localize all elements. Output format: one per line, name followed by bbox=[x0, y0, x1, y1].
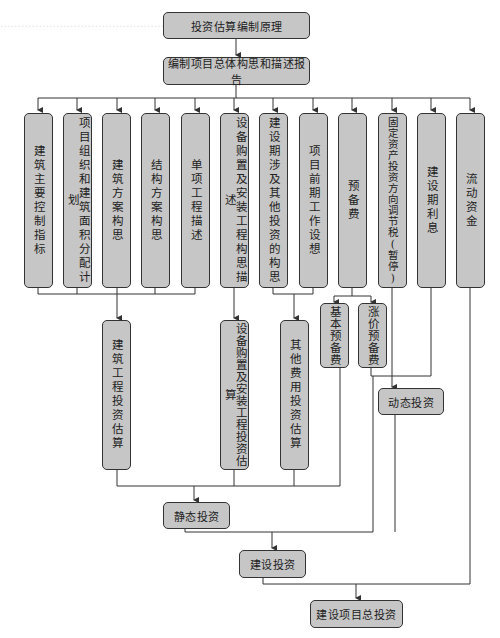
node-c8: 项目前期工作设想 bbox=[299, 113, 328, 288]
node-construction: 建设投资 bbox=[239, 550, 306, 578]
node-report: 编制项目总体构思和描述报告 bbox=[163, 57, 310, 85]
node-c12: 流动资金 bbox=[456, 113, 485, 288]
node-c5-label: 单项工程描述 bbox=[190, 159, 202, 243]
node-basic-reserve-label: 基本预备费 bbox=[329, 306, 341, 366]
node-c5: 单项工程描述 bbox=[181, 113, 210, 288]
node-root: 投资估算编制原理 bbox=[163, 12, 310, 39]
node-building-est: 建筑工程投资估算 bbox=[102, 320, 131, 470]
node-price-reserve-label: 涨价预备费 bbox=[367, 306, 379, 366]
node-basic-reserve: 基本预备费 bbox=[320, 303, 349, 368]
node-c10: 固定资产投资方向调节税(暂停) bbox=[378, 113, 407, 288]
node-c11: 建设期利息 bbox=[417, 113, 446, 288]
node-c4: 结构方案构思 bbox=[141, 113, 170, 288]
node-c6: 设备购置及安装工程构思描述 bbox=[220, 113, 249, 288]
node-equip-est: 设备购置及安装工程投资估算 bbox=[220, 320, 249, 470]
connector-lines bbox=[0, 0, 500, 638]
node-static-label: 静态投资 bbox=[174, 508, 220, 524]
node-c2-label: 项目组织和建筑面积分配计划 bbox=[66, 114, 89, 287]
node-c8-label: 项目前期工作设想 bbox=[308, 145, 320, 257]
node-c9: 预备费 bbox=[338, 113, 367, 288]
node-equip-est-label: 设备购置及安装工程投资估算 bbox=[223, 321, 246, 469]
node-c2: 项目组织和建筑面积分配计划 bbox=[63, 113, 92, 288]
node-c11-label: 建设期利息 bbox=[426, 166, 438, 236]
node-c1: 建筑主要控制指标 bbox=[24, 113, 53, 288]
node-c1-label: 建筑主要控制指标 bbox=[33, 145, 45, 257]
node-other-est: 其他费用投资估算 bbox=[280, 320, 309, 470]
node-total-label: 建设项目总投资 bbox=[316, 606, 397, 622]
node-c7: 建设期涉及其他投资的构思 bbox=[259, 113, 288, 288]
node-building-est-label: 建筑工程投资估算 bbox=[111, 339, 123, 451]
node-dynamic: 动态投资 bbox=[378, 388, 444, 415]
node-price-reserve: 涨价预备费 bbox=[358, 303, 387, 368]
node-c9-label: 预备费 bbox=[347, 180, 359, 222]
node-other-est-label: 其他费用投资估算 bbox=[289, 339, 301, 451]
node-c3: 建筑方案构思 bbox=[102, 113, 131, 288]
node-dynamic-label: 动态投资 bbox=[388, 394, 434, 410]
node-report-label: 编制项目总体构思和描述报告 bbox=[164, 55, 309, 87]
node-root-label: 投资估算编制原理 bbox=[191, 18, 283, 34]
node-c4-label: 结构方案构思 bbox=[150, 159, 162, 243]
node-construction-label: 建设投资 bbox=[250, 556, 296, 572]
node-c12-label: 流动资金 bbox=[465, 173, 477, 229]
node-static: 静态投资 bbox=[163, 502, 230, 529]
node-c6-label: 设备购置及安装工程构思描述 bbox=[223, 114, 246, 287]
node-c3-label: 建筑方案构思 bbox=[111, 159, 123, 243]
node-c10-label: 固定资产投资方向调节税(暂停) bbox=[387, 117, 398, 284]
node-c7-label: 建设期涉及其他投资的构思 bbox=[268, 117, 280, 285]
node-total: 建设项目总投资 bbox=[310, 600, 403, 628]
